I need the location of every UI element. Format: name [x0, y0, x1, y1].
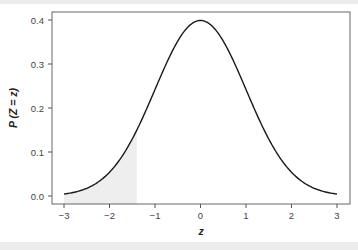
y-tick-label: 0.0 [31, 191, 44, 202]
plot-frame [52, 12, 350, 204]
x-tick-label: 3 [334, 210, 339, 221]
y-tick-label: 0.4 [31, 15, 44, 26]
y-tick-label: 0.1 [31, 147, 44, 158]
x-tick-label: −2 [104, 210, 115, 221]
normal-distribution-chart: −3−2−10123 0.00.10.20.30.4 z P (Z = z) [0, 0, 358, 250]
y-tick-label: 0.3 [31, 59, 44, 70]
density-curve [64, 20, 337, 194]
y-tick-label: 0.2 [31, 103, 44, 114]
x-tick-label: −3 [59, 210, 70, 221]
x-axis-ticks: −3−2−10123 [59, 204, 340, 221]
bottom-band [0, 242, 358, 250]
x-tick-label: 0 [198, 210, 203, 221]
y-axis-ticks: 0.00.10.20.30.4 [31, 15, 52, 202]
x-tick-label: 2 [289, 210, 294, 221]
x-tick-label: 1 [243, 210, 248, 221]
y-axis-title: P (Z = z) [7, 87, 19, 128]
x-tick-label: −1 [150, 210, 161, 221]
shaded-tail-area [64, 130, 137, 204]
x-axis-title: z [197, 225, 204, 237]
